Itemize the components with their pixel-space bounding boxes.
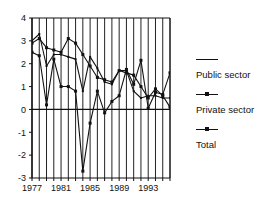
data-point-marker — [38, 54, 41, 57]
legend-marker-public-sector — [196, 56, 218, 64]
chart-figure: 43210-1-2-319771981198519891993 Public s… — [0, 0, 277, 207]
series-total — [31, 51, 172, 173]
data-point-marker — [60, 85, 63, 88]
data-point-marker — [60, 51, 63, 54]
data-point-marker — [111, 83, 113, 85]
data-point-marker — [38, 37, 41, 40]
legend-marker-total — [196, 126, 218, 134]
data-point-marker — [89, 122, 92, 125]
data-point-marker — [74, 90, 77, 93]
legend-item-public-sector: Public sector — [196, 56, 276, 82]
data-point-marker — [81, 170, 84, 173]
data-point-marker — [67, 85, 70, 88]
data-point-marker — [81, 53, 84, 56]
x-tick-label: 1981 — [51, 183, 71, 193]
legend-label-private-sector: Private sector — [196, 104, 254, 115]
data-point-marker — [45, 46, 48, 49]
data-point-marker — [132, 74, 135, 77]
y-tick-label: 1 — [21, 82, 26, 92]
y-tick-label: -3 — [18, 173, 26, 183]
data-point-marker — [139, 85, 142, 88]
data-point-marker — [89, 56, 91, 58]
data-point-marker — [104, 81, 106, 83]
data-point-marker — [74, 42, 77, 45]
data-point-marker — [133, 90, 135, 92]
data-point-marker — [31, 51, 34, 54]
y-tick-label: 3 — [21, 36, 26, 46]
data-point-marker — [67, 56, 69, 58]
data-point-marker — [89, 65, 92, 68]
legend-item-private-sector: Private sector — [196, 91, 276, 117]
legend-label-public-sector: Public sector — [196, 69, 250, 80]
y-tick-label: 0 — [21, 105, 26, 115]
data-point-marker — [52, 58, 55, 61]
data-point-marker — [31, 42, 34, 45]
data-point-marker — [154, 91, 157, 94]
data-point-marker — [169, 71, 172, 74]
data-point-marker — [161, 93, 164, 96]
data-point-marker — [75, 58, 77, 60]
x-tick-label: 1977 — [22, 183, 42, 193]
data-point-marker — [140, 97, 142, 99]
legend-marker-private-sector — [196, 91, 218, 99]
data-point-marker — [110, 81, 113, 84]
data-point-marker — [96, 90, 99, 93]
data-point-marker — [60, 54, 62, 56]
x-tick-label: 1985 — [80, 183, 100, 193]
data-point-marker — [169, 106, 172, 109]
data-point-marker — [45, 103, 48, 106]
data-point-marker — [118, 69, 121, 72]
y-tick-label: -1 — [18, 128, 26, 138]
y-axis-ticks: 43210-1-2-3 — [18, 13, 32, 183]
data-point-marker — [96, 67, 98, 69]
data-point-marker — [52, 49, 55, 52]
x-axis-ticks: 19771981198519891993 — [22, 178, 170, 193]
data-point-marker — [38, 33, 40, 35]
data-point-marker — [82, 90, 84, 92]
y-tick-label: -2 — [18, 150, 26, 160]
data-series-group — [31, 33, 172, 173]
x-tick-label: 1989 — [109, 183, 129, 193]
data-point-marker — [110, 100, 113, 103]
data-point-marker — [103, 111, 106, 114]
data-point-marker — [132, 83, 135, 86]
data-point-marker — [118, 94, 121, 97]
chart-legend: Public sector Private sector Total — [196, 56, 276, 154]
data-point-marker — [46, 65, 48, 67]
x-tick-label: 1993 — [138, 183, 158, 193]
series-public-sector — [31, 33, 171, 99]
series-line — [32, 52, 170, 171]
data-point-marker — [154, 87, 157, 90]
data-point-marker — [103, 78, 106, 81]
data-point-marker — [169, 97, 171, 99]
data-point-marker — [67, 37, 70, 40]
data-point-marker — [139, 59, 142, 62]
legend-item-total: Total — [196, 126, 276, 152]
y-tick-label: 2 — [21, 59, 26, 69]
data-point-marker — [53, 54, 55, 56]
y-tick-label: 4 — [21, 13, 26, 23]
data-point-marker — [96, 76, 99, 79]
legend-label-total: Total — [196, 139, 216, 150]
data-point-marker — [125, 68, 128, 71]
data-point-marker — [147, 107, 150, 110]
